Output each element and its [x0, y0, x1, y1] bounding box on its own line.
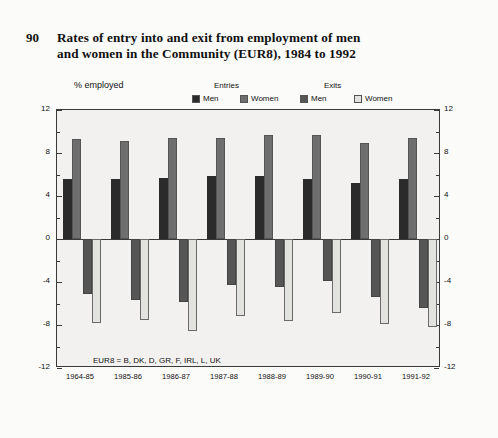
- bar: [131, 239, 140, 300]
- x-tick-label: 1991-92: [392, 372, 440, 381]
- figure-header: 90 Rates of entry into and exit from emp…: [26, 30, 472, 62]
- bar: [419, 239, 428, 308]
- legend-label-exits-men: Men: [311, 94, 327, 103]
- legend-swatch-exits-women: [354, 95, 362, 103]
- bar: [111, 179, 120, 239]
- y-tick-major: [434, 153, 439, 154]
- x-tick-label: 1988-89: [248, 372, 296, 381]
- bar: [255, 176, 264, 239]
- bar: [227, 239, 236, 285]
- bar: [312, 135, 321, 239]
- y-tick-minor: [57, 218, 60, 219]
- bar: [72, 139, 81, 239]
- y-tick-major: [57, 110, 62, 111]
- y-tick-label: 8: [28, 147, 50, 156]
- y-tick-minor: [57, 175, 60, 176]
- y-tick-label: -4: [444, 276, 466, 285]
- bar: [179, 239, 188, 302]
- x-axis-labels: 1964-851985-861986-871987-881988-891989-…: [56, 372, 440, 386]
- legend-label-entries-women: Women: [251, 94, 278, 103]
- y-tick-minor: [57, 261, 60, 262]
- y-tick-major: [57, 282, 62, 283]
- bar: [380, 239, 389, 324]
- x-tick-label: 1990-91: [344, 372, 392, 381]
- x-tick-label: 1986-87: [152, 372, 200, 381]
- y-tick-major: [57, 196, 62, 197]
- legend-label-entries-men: Men: [203, 94, 219, 103]
- bar: [236, 239, 245, 316]
- y-tick-label: -12: [28, 362, 50, 371]
- legend-swatch-exits-men: [300, 95, 308, 103]
- y-tick-major: [434, 196, 439, 197]
- bar: [159, 178, 168, 239]
- y-tick-label: 12: [444, 104, 466, 113]
- bar: [216, 138, 225, 239]
- y-tick-minor: [436, 175, 439, 176]
- bar: [428, 239, 437, 327]
- bar: [371, 239, 380, 297]
- y-tick-major: [57, 153, 62, 154]
- bar: [140, 239, 149, 320]
- y-tick-label: -4: [28, 276, 50, 285]
- chart-area: % employed Entries Exits Men Women Men W…: [28, 80, 472, 400]
- y-tick-minor: [57, 304, 60, 305]
- bar: [264, 135, 273, 239]
- figure-number: 90: [26, 30, 39, 46]
- plot-frame: EUR8 = B, DK, D, GR, F, IRL, L, UK: [56, 109, 440, 367]
- y-tick-label: -8: [444, 319, 466, 328]
- bar: [303, 179, 312, 239]
- bar: [83, 239, 92, 294]
- bar: [63, 179, 72, 239]
- bar: [92, 239, 101, 323]
- bar: [168, 138, 177, 239]
- bar: [332, 239, 341, 313]
- legend-group-exits-title: Exits: [324, 81, 341, 90]
- y-tick-minor: [57, 347, 60, 348]
- legend-item-exits-men: Men: [300, 94, 327, 103]
- y-tick-label: 0: [444, 233, 466, 242]
- x-tick-label: 1964-85: [56, 372, 104, 381]
- y-tick-major: [434, 110, 439, 111]
- figure-title: Rates of entry into and exit from employ…: [57, 30, 360, 62]
- y-tick-minor: [436, 218, 439, 219]
- legend-item-entries-women: Women: [240, 94, 278, 103]
- bar: [323, 239, 332, 281]
- bar: [275, 239, 284, 287]
- bar: [408, 138, 417, 239]
- legend-swatch-entries-women: [240, 95, 248, 103]
- figure-title-line-2: and women in the Community (EUR8), 1984 …: [57, 46, 360, 62]
- x-tick-label: 1985-86: [104, 372, 152, 381]
- y-tick-major: [57, 325, 62, 326]
- legend-item-exits-women: Women: [354, 94, 392, 103]
- y-tick-major: [57, 368, 62, 369]
- legend-swatch-entries-men: [192, 95, 200, 103]
- bar: [360, 143, 369, 239]
- y-tick-minor: [436, 347, 439, 348]
- bar: [207, 176, 216, 239]
- figure-page: 90 Rates of entry into and exit from emp…: [0, 0, 498, 438]
- y-tick-minor: [57, 132, 60, 133]
- bar: [188, 239, 197, 331]
- y-tick-label: 4: [444, 190, 466, 199]
- y-tick-label: 0: [28, 233, 50, 242]
- y-tick-label: -12: [444, 362, 466, 371]
- y-tick-label: 8: [444, 147, 466, 156]
- chart-legend: Entries Exits Men Women Men Women: [178, 81, 428, 107]
- chart-footnote: EUR8 = B, DK, D, GR, F, IRL, L, UK: [93, 356, 221, 365]
- y-tick-label: -8: [28, 319, 50, 328]
- legend-group-entries-title: Entries: [214, 81, 239, 90]
- x-tick-label: 1989-90: [296, 372, 344, 381]
- y-tick-major: [57, 239, 62, 240]
- figure-title-line-1: Rates of entry into and exit from employ…: [57, 30, 360, 45]
- y-tick-major: [434, 368, 439, 369]
- legend-label-exits-women: Women: [365, 94, 392, 103]
- bar: [284, 239, 293, 321]
- plot-inner: [57, 110, 439, 366]
- bar: [351, 183, 360, 239]
- bar: [399, 179, 408, 239]
- legend-item-entries-men: Men: [192, 94, 219, 103]
- y-tick-label: 4: [28, 190, 50, 199]
- bar: [120, 141, 129, 239]
- y-tick-label: 12: [28, 104, 50, 113]
- y-axis-label: % employed: [74, 80, 124, 90]
